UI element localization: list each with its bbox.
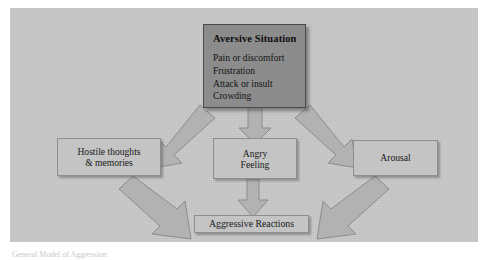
node-aggressive-line-1: Aggressive Reactions	[199, 218, 304, 230]
node-angry-line-1: Angry	[218, 147, 292, 158]
arrow-aversive-to-arousal	[295, 105, 357, 168]
arrow-aversive-to-hostile	[153, 105, 215, 168]
node-aversive-situation: Aversive Situation Pain or discomfort Fr…	[203, 24, 306, 108]
node-hostile-line-2: & memories	[62, 157, 156, 168]
node-hostile-line-1: Hostile thoughts	[62, 146, 156, 157]
node-aversive-item-1: Frustration	[213, 65, 305, 78]
diagram-panel: Aversive Situation Pain or discomfort Fr…	[10, 8, 478, 242]
node-hostile-thoughts: Hostile thoughts & memories	[57, 138, 161, 176]
node-aggressive-content: Aggressive Reactions	[195, 218, 308, 230]
node-aggressive-reactions: Aggressive Reactions	[194, 215, 309, 233]
node-aversive-title: Aversive Situation	[213, 33, 305, 45]
node-angry-content: Angry Feeling	[214, 147, 296, 170]
arrow-angry-to-aggressive	[238, 179, 268, 217]
node-hostile-content: Hostile thoughts & memories	[58, 146, 160, 169]
node-arousal: Arousal	[353, 140, 438, 176]
figure-root: Aversive Situation Pain or discomfort Fr…	[0, 0, 485, 260]
node-arousal-line-1: Arousal	[358, 152, 433, 163]
node-arousal-content: Arousal	[354, 152, 437, 163]
node-angry-line-2: Feeling	[218, 159, 292, 170]
node-aversive-item-0: Pain or discomfort	[213, 52, 305, 65]
figure-caption: General Model of Aggression	[12, 250, 472, 260]
node-aversive-item-2: Attack or insult	[213, 78, 305, 91]
arrow-arousal-to-aggressive	[317, 176, 389, 239]
node-angry-feeling: Angry Feeling	[213, 138, 297, 179]
node-aversive-item-3: Crowding	[213, 90, 305, 103]
node-aversive-content: Aversive Situation Pain or discomfort Fr…	[204, 25, 305, 103]
arrow-hostile-to-aggressive	[119, 176, 191, 239]
